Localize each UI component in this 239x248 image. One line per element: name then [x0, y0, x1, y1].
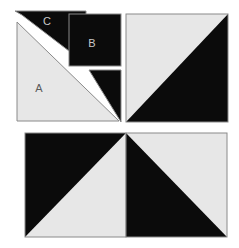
half-square-bottom-left: [24, 132, 127, 238]
half-square-bottom-right: [125, 132, 228, 238]
square-b-shape: [69, 14, 121, 66]
geometric-dissection-figure: C B A: [0, 0, 239, 248]
half-square-top-right: [125, 13, 229, 123]
dissected-square-top-left: [13, 9, 123, 124]
